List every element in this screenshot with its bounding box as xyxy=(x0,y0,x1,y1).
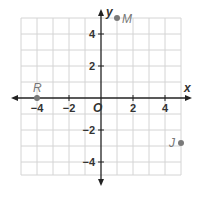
points: M R J xyxy=(33,12,184,150)
y-axis-label: y xyxy=(105,5,114,19)
point-m xyxy=(114,15,120,21)
coordinate-plane: −4 −2 2 4 4 2 −2 −4 O x y M R J xyxy=(0,0,201,201)
y-tick-label: −2 xyxy=(82,124,95,136)
axes xyxy=(15,12,189,183)
y-tick-label: 2 xyxy=(89,60,95,72)
x-tick-label: −2 xyxy=(63,102,76,114)
point-j-label: J xyxy=(168,136,176,150)
point-r xyxy=(34,95,40,101)
point-j xyxy=(178,140,184,146)
x-tick-label: 4 xyxy=(162,102,169,114)
origin-label: O xyxy=(93,101,103,115)
x-tick-label: 2 xyxy=(130,102,136,114)
point-r-label: R xyxy=(33,81,42,95)
y-tick-label: −4 xyxy=(82,156,95,168)
y-tick-label: 4 xyxy=(89,28,96,40)
x-tick-label: −4 xyxy=(31,102,44,114)
point-m-label: M xyxy=(122,12,132,26)
x-axis-label: x xyxy=(183,81,192,95)
